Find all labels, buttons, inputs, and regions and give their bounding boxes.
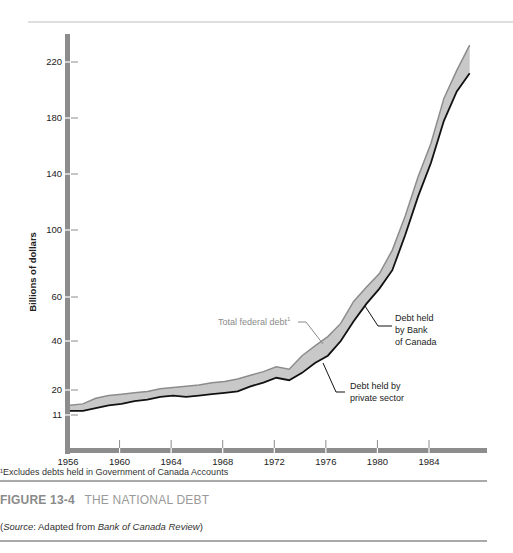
figure-title: THE NATIONAL DEBT [84, 493, 209, 507]
bank-of-canada-band [70, 45, 470, 411]
boc-label-2: by Bank [395, 325, 428, 335]
svg-text:180: 180 [46, 112, 62, 123]
svg-text:220: 220 [46, 56, 62, 67]
svg-text:1960: 1960 [109, 456, 130, 467]
annotation-bank-of-canada: Debt held by Bank of Canada [365, 306, 437, 347]
svg-text:40: 40 [51, 335, 62, 346]
private-label-1: Debt held by [350, 381, 401, 391]
svg-text:1968: 1968 [212, 456, 233, 467]
boc-label-3: of Canada [395, 337, 437, 347]
total-leader-line [298, 322, 323, 344]
boc-leader-line [365, 306, 392, 326]
svg-text:1976: 1976 [315, 456, 336, 467]
svg-text:11: 11 [52, 409, 62, 420]
svg-text:1956: 1956 [57, 456, 78, 467]
figure-caption: FIGURE 13-4 THE NATIONAL DEBT [0, 493, 209, 507]
axes [64, 34, 487, 454]
private-leader-line [323, 363, 345, 392]
svg-text:20: 20 [51, 384, 62, 395]
y-axis-label: Billions of dollars [27, 232, 38, 312]
svg-text:1964: 1964 [161, 456, 182, 467]
figure-number: FIGURE 13-4 [0, 493, 75, 507]
svg-text:140: 140 [46, 168, 62, 179]
total-label: Total federal debt [218, 317, 288, 327]
svg-text:100: 100 [46, 224, 62, 235]
private-label-2: private sector [350, 393, 404, 403]
boc-label-1: Debt held [395, 313, 434, 323]
svg-text:60: 60 [51, 291, 62, 302]
footnote: ¹Excludes debts held in Government of Ca… [0, 467, 228, 477]
svg-text:Total federal debt1: Total federal debt1 [218, 316, 291, 327]
source-publication: Bank of Canada Review [98, 521, 200, 532]
annotation-total: Total federal debt1 [218, 316, 323, 344]
annotation-private: Debt held by private sector [323, 363, 404, 403]
svg-text:1980: 1980 [367, 456, 388, 467]
svg-text:1972: 1972 [264, 456, 285, 467]
svg-text:1984: 1984 [418, 456, 439, 467]
figure-source: (Source: Adapted from Bank of Canada Rev… [0, 521, 203, 532]
